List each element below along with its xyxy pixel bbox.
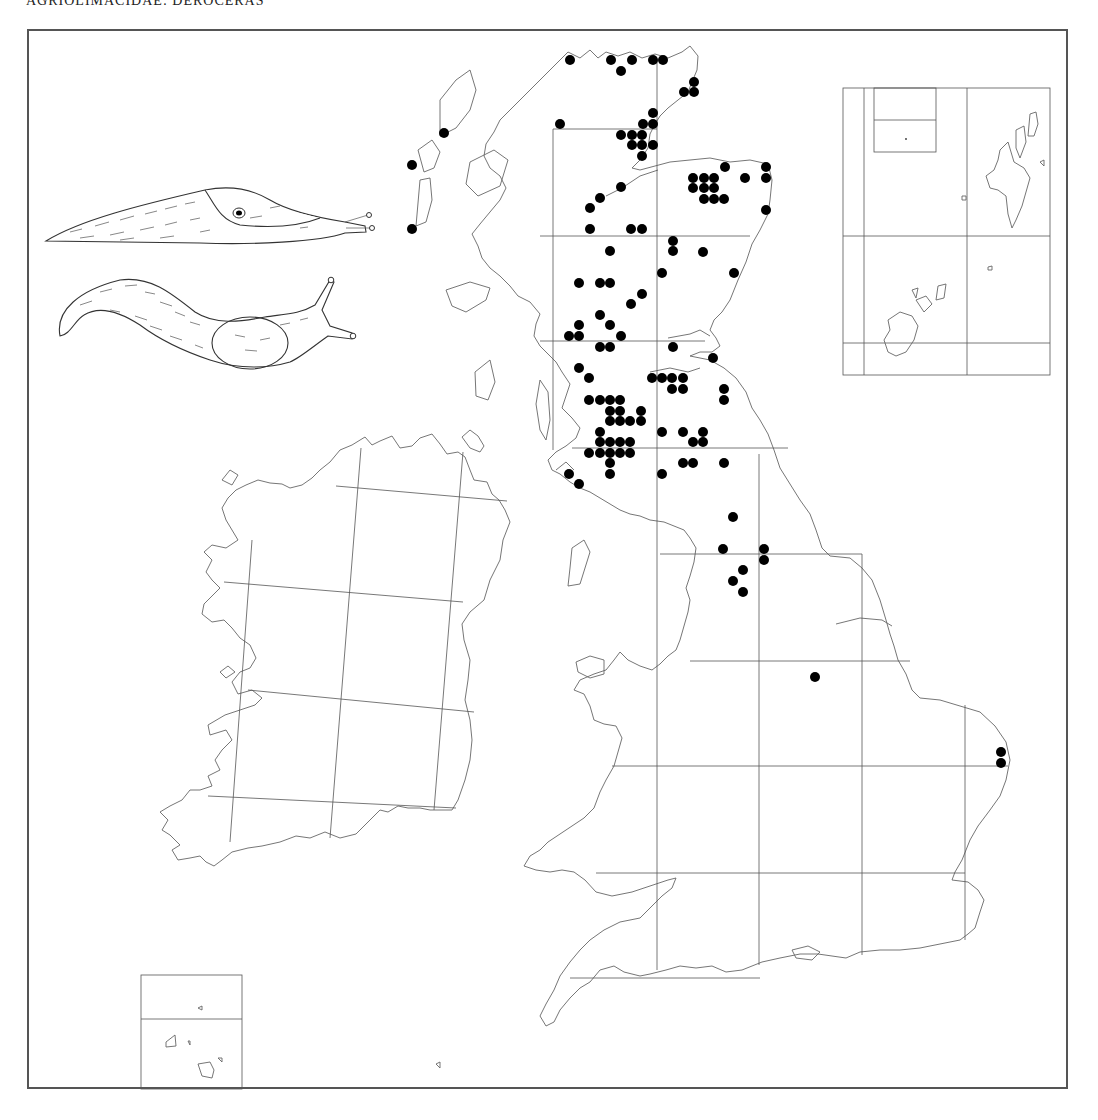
record-dot xyxy=(565,55,575,65)
record-dot xyxy=(626,224,636,234)
record-dot xyxy=(595,448,605,458)
record-dot xyxy=(647,373,657,383)
record-dot xyxy=(709,194,719,204)
record-dot xyxy=(688,437,698,447)
record-dot xyxy=(719,458,729,468)
slug-illustration-curved xyxy=(59,277,355,369)
record-dot xyxy=(574,320,584,330)
record-dot xyxy=(615,406,625,416)
record-dot xyxy=(636,406,646,416)
record-dot xyxy=(638,119,648,129)
record-dot xyxy=(668,342,678,352)
record-dot xyxy=(605,406,615,416)
record-dot xyxy=(627,140,637,150)
record-dot xyxy=(648,108,658,118)
record-dot xyxy=(637,289,647,299)
record-dot xyxy=(657,373,667,383)
great-britain-outline xyxy=(416,46,1010,1026)
record-dot xyxy=(719,395,729,405)
record-dot xyxy=(574,278,584,288)
record-dot xyxy=(625,448,635,458)
record-dot xyxy=(605,448,615,458)
record-dot xyxy=(606,55,616,65)
record-dot xyxy=(605,458,615,468)
record-dot xyxy=(678,458,688,468)
record-dot xyxy=(759,544,769,554)
record-dot xyxy=(728,576,738,586)
record-dot xyxy=(574,479,584,489)
record-dot xyxy=(740,173,750,183)
record-dot xyxy=(678,384,688,394)
record-dot xyxy=(648,55,658,65)
record-dot xyxy=(761,162,771,172)
record-dot xyxy=(648,119,658,129)
record-dot xyxy=(720,162,730,172)
record-dot xyxy=(699,183,709,193)
record-dot xyxy=(810,672,820,682)
record-dot xyxy=(595,310,605,320)
record-dot xyxy=(657,469,667,479)
record-dot xyxy=(636,416,646,426)
record-dot xyxy=(595,427,605,437)
record-dot xyxy=(595,395,605,405)
record-dot xyxy=(625,437,635,447)
record-dot xyxy=(616,66,626,76)
record-dot xyxy=(564,469,574,479)
record-dot xyxy=(709,183,719,193)
record-dot xyxy=(708,353,718,363)
record-dot xyxy=(698,437,708,447)
record-dot xyxy=(679,87,689,97)
record-dot xyxy=(761,205,771,215)
record-dot xyxy=(574,363,584,373)
record-dot xyxy=(555,119,565,129)
record-dot xyxy=(658,55,668,65)
record-dot xyxy=(605,320,615,330)
record-dot xyxy=(698,427,708,437)
slug-illustration-extended xyxy=(46,188,375,244)
record-dot xyxy=(615,395,625,405)
record-dot xyxy=(667,384,677,394)
record-dot xyxy=(699,173,709,183)
record-dot xyxy=(595,193,605,203)
record-dot xyxy=(657,268,667,278)
record-dot xyxy=(439,128,449,138)
record-dot xyxy=(616,331,626,341)
record-dot xyxy=(761,173,771,183)
record-dot xyxy=(616,182,626,192)
record-dot xyxy=(668,236,678,246)
record-dot xyxy=(996,758,1006,768)
record-dot xyxy=(657,427,667,437)
record-dot xyxy=(605,342,615,352)
record-dot xyxy=(595,437,605,447)
record-dot xyxy=(996,747,1006,757)
record-dot xyxy=(574,331,584,341)
record-dot xyxy=(615,416,625,426)
distribution-map xyxy=(0,0,1098,1120)
ireland-outline xyxy=(160,430,510,866)
record-dot xyxy=(564,331,574,341)
scilly-isles xyxy=(436,1062,440,1068)
record-dot xyxy=(678,373,688,383)
record-dot xyxy=(616,130,626,140)
record-dot xyxy=(605,246,615,256)
record-dot xyxy=(668,246,678,256)
record-dot xyxy=(605,437,615,447)
record-dot xyxy=(605,395,615,405)
record-dot xyxy=(615,448,625,458)
record-dot xyxy=(728,512,738,522)
record-dot xyxy=(637,140,647,150)
record-dot xyxy=(407,160,417,170)
record-dot xyxy=(407,224,417,234)
record-dot xyxy=(667,373,677,383)
record-dot xyxy=(605,416,615,426)
record-dot xyxy=(625,416,635,426)
record-dot xyxy=(738,587,748,597)
record-dot xyxy=(584,373,594,383)
record-dot xyxy=(738,565,748,575)
record-dot xyxy=(637,224,647,234)
inset-south xyxy=(141,975,242,1089)
record-dot xyxy=(595,342,605,352)
record-dot xyxy=(678,427,688,437)
record-dot xyxy=(689,77,699,87)
record-dot xyxy=(637,151,647,161)
